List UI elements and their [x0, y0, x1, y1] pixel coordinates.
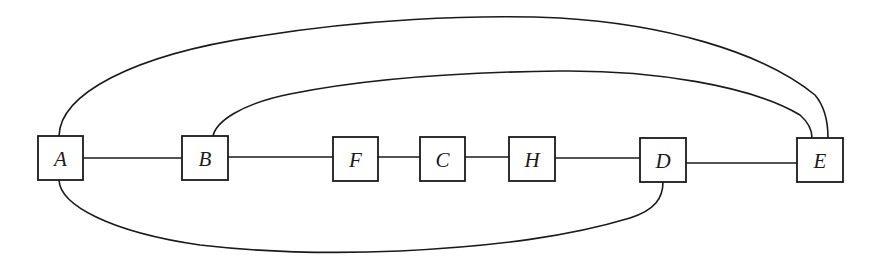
node-d-label: D	[654, 149, 670, 173]
node-f-label: F	[348, 148, 362, 172]
node-e: E	[797, 138, 843, 182]
node-c-label: C	[435, 148, 450, 172]
node-d: D	[640, 138, 686, 182]
node-a: A	[38, 136, 83, 180]
node-e-label: E	[813, 149, 827, 173]
node-b: B	[182, 136, 228, 180]
node-b-label: B	[199, 147, 212, 171]
node-h-label: H	[523, 148, 541, 172]
node-a-label: A	[52, 147, 67, 171]
graph-diagram: A B F C H D E	[0, 0, 880, 264]
edge-a-d	[59, 180, 663, 252]
node-h: H	[509, 137, 555, 181]
edge-b-e	[213, 71, 812, 138]
node-f: F	[333, 137, 378, 181]
node-c: C	[420, 137, 465, 181]
edge-a-e	[59, 17, 828, 138]
